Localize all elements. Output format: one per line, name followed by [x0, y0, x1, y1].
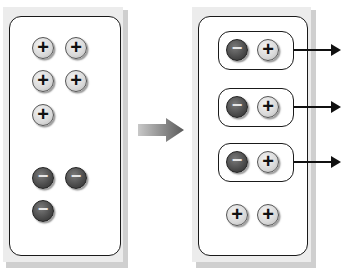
positive-ion: +: [226, 204, 248, 226]
plus-icon: +: [33, 104, 53, 124]
negative-ion: −: [32, 200, 54, 222]
pair-arrow-line: [294, 49, 332, 51]
plus-icon: +: [258, 39, 278, 59]
right-arrow-icon: [138, 118, 184, 142]
positive-ion: +: [257, 151, 279, 173]
minus-icon: −: [227, 95, 247, 115]
plus-icon: +: [258, 96, 278, 116]
minus-icon: −: [33, 199, 53, 219]
plus-icon: +: [33, 37, 53, 57]
minus-icon: −: [33, 166, 53, 186]
negative-ion: −: [65, 167, 87, 189]
negative-ion: −: [226, 96, 248, 118]
arrow-head-icon: [331, 156, 341, 168]
plus-icon: +: [33, 70, 53, 90]
negative-ion: −: [32, 167, 54, 189]
positive-ion: +: [65, 70, 87, 92]
positive-ion: +: [257, 39, 279, 61]
negative-ion: −: [226, 39, 248, 61]
positive-ion: +: [32, 104, 54, 126]
positive-ion: +: [257, 96, 279, 118]
negative-ion: −: [226, 151, 248, 173]
arrow-head-icon: [331, 101, 341, 113]
plus-icon: +: [258, 204, 278, 224]
positive-ion: +: [32, 70, 54, 92]
positive-ion: +: [32, 37, 54, 59]
plus-icon: +: [66, 37, 86, 57]
pair-arrow-line: [294, 106, 332, 108]
positive-ion: +: [257, 204, 279, 226]
plus-icon: +: [66, 70, 86, 90]
plus-icon: +: [227, 204, 247, 224]
positive-ion: +: [65, 37, 87, 59]
minus-icon: −: [66, 166, 86, 186]
arrow-head-icon: [331, 44, 341, 56]
plus-icon: +: [258, 151, 278, 171]
pair-arrow-line: [294, 161, 332, 163]
minus-icon: −: [227, 150, 247, 170]
minus-icon: −: [227, 38, 247, 58]
